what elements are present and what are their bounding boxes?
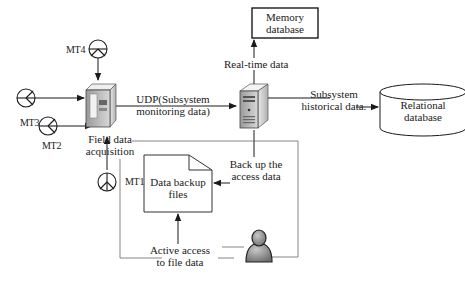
backup-files-line1: Data backup [144,176,212,188]
relational-database-label-line2: database [383,111,463,123]
sensor-unnamed-icon [17,89,35,107]
relational-database-label: Relational database [383,99,463,123]
active-access-line1: Active access [148,244,212,256]
realtime-data-label: Real-time data [224,58,288,70]
sensor-mt1-icon [98,173,116,191]
historical-data-label: Subsystem historical data. [294,88,374,112]
active-access-line2: to file data [148,256,212,268]
udp-label-line2: monitoring data) [118,105,228,117]
sensor-mt2-label: MT2 [42,140,61,151]
sensor-mt4-icon [89,40,107,58]
relational-database-label-line1: Relational [383,99,463,111]
field-acquisition-line1: Field data [78,133,142,145]
field-acquisition-line2: acquisition [78,145,142,157]
sensor-mt1-label: MT1 [125,176,144,187]
field-server-icon [86,84,116,127]
memory-database-label: Memory database [252,11,318,35]
sensor-mt4-label: MT4 [66,44,85,55]
field-data-acquisition-label: Field data acquisition [78,133,142,157]
data-backup-files-label: Data backup files [144,176,212,200]
architecture-diagram [0,0,465,281]
active-access-label: Active access to file data [148,244,212,268]
memory-database-label-line2: database [252,23,318,35]
sensor-mt3-icon [39,117,57,135]
sensor-mt3-label: MT3 [20,117,39,128]
backup-label-line2: access data [226,170,286,182]
udp-label-line1: UDP(Subsystem [118,93,228,105]
central-server-icon [240,84,268,128]
memory-database-label-line1: Memory [252,11,318,23]
user-icon [246,230,272,262]
udp-edge-label: UDP(Subsystem monitoring data) [118,93,228,117]
backup-label-line1: Back up the [226,158,286,170]
historical-label-line1: Subsystem [294,88,374,100]
backup-files-line2: files [144,188,212,200]
backup-access-data-label: Back up the access data [226,158,286,182]
historical-label-line2: historical data. [294,100,374,112]
